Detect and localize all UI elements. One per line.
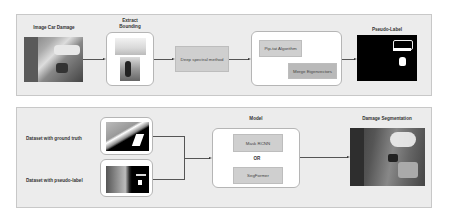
merge-eigenvectors-box: Merge Eigenvectors [288,63,337,79]
ground-truth-image [106,122,149,151]
extract-bounding-title: Extract Bounding [106,18,154,29]
car-damage-image [24,37,83,82]
connector [229,59,249,60]
segformer-box: SegFormer [233,167,283,184]
model-box: Mask RCNN OR SegFormer [212,128,300,188]
bounding-crop-2 [120,57,140,81]
pseudo-label-image [357,35,417,81]
pseudo-label-dataset-image [106,166,149,193]
input-image-title: Image Car Damage [24,25,84,31]
mask-rcnn-box: Mask RCNN [233,134,283,152]
dataset-pseudo-label-label: Dataset with pseudo-label [26,178,83,183]
deep-spectral-method-box: Deep spectral method [175,46,229,72]
connector [154,59,173,60]
pip-tat-algorithm-box: Pip-tat Algorithm [259,40,302,57]
connector [153,179,184,180]
algorithm-container: Pip-tat Algorithm Merge Eigenvectors [251,31,342,86]
bounding-crop-1 [115,38,146,55]
or-label: OR [213,156,301,162]
dataset-ground-truth-label: Dataset with ground truth [26,136,82,141]
ground-truth-dataset-box [100,117,153,155]
extract-bounding-box [106,32,154,86]
pseudo-label-dataset-box [100,159,153,197]
connector [83,59,104,60]
extract-title-line2: Bounding [106,24,154,30]
damage-segmentation-image [350,128,425,186]
damage-segmentation-title: Damage Segmentation [345,116,429,122]
connector [153,136,184,137]
connector [300,157,348,158]
connector [184,158,210,159]
pseudo-label-title: Pseudo-Label [357,27,417,33]
model-title: Model [212,116,300,122]
